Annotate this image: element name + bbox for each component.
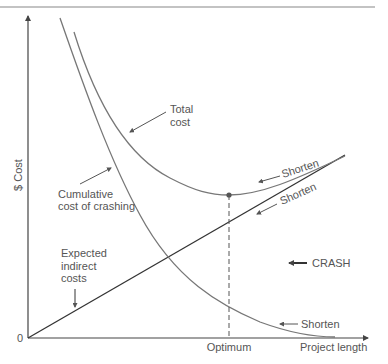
y-axis-label: $ Cost: [12, 159, 24, 191]
origin-label: 0: [17, 332, 23, 344]
optimum-label: Optimum: [207, 341, 252, 353]
shorten-indirect-label: Shorten: [278, 180, 318, 207]
total-cost-arrow: [130, 112, 166, 132]
cost-tradeoff-chart: $ Cost 0 Project length Optimum Total co…: [0, 0, 388, 364]
crash-label: CRASH: [312, 257, 351, 269]
crashing-label-line1: Cumulative: [58, 188, 113, 200]
x-axis-label: Project length: [300, 341, 367, 353]
indirect-label-line3: costs: [61, 272, 87, 284]
total-cost-label-line2: cost: [170, 116, 190, 128]
crashing-arrow: [80, 168, 111, 184]
indirect-label-line1: Expected: [61, 247, 107, 259]
shorten-indirect-arrow: [257, 204, 277, 214]
crashing-cost-curve: [60, 18, 335, 337]
shorten-total-arrow: [259, 176, 280, 182]
crashing-label-line2: cost of crashing: [58, 200, 135, 212]
total-cost-label-line1: Total: [170, 103, 193, 115]
indirect-label-line2: indirect: [61, 260, 96, 272]
optimum-point: [226, 192, 231, 197]
shorten-crashing-label: Shorten: [301, 318, 340, 330]
